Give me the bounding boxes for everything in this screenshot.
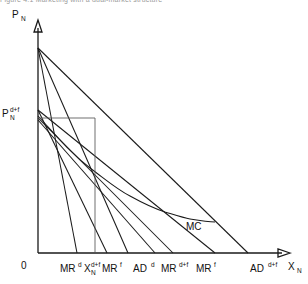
y-axis-title-base: P [12,9,19,20]
axis-group [34,20,290,257]
marginal-cost-curve-label: MC [186,221,202,232]
x-tick-ad-domestic: AD d [133,261,155,274]
x-tick-quantity-combined: X N d+f [84,261,100,276]
x-tick-base: AD [250,263,264,274]
x-tick-sup: f [120,261,122,268]
x-tick-sup: d [151,261,155,268]
x-tick-base: MR [161,263,177,274]
x-tick-ad-combined: AD d+f [250,261,277,274]
guide-group [38,118,95,253]
x-tick-base: MR [60,263,76,274]
x-tick-mr-domestic: MR d [60,261,82,274]
curve-mr-combined [38,120,155,253]
x-tick-sup: d+f [179,261,188,268]
x-tick-base: MR [102,263,118,274]
x-tick-sup: d [78,261,82,268]
x-axis-title-sub: N [297,267,302,274]
y-axis-title-sub: N [21,15,26,22]
x-tick-base: X [84,263,91,274]
origin-label: 0 [21,260,27,271]
curve-ad-domestic [38,48,128,253]
x-tick-mr-combined: MR d+f [161,261,188,274]
x-tick-sup: f [214,261,216,268]
x-tick-sup: d+f [91,261,100,268]
y-tick-sup: d+f [10,106,19,113]
x-tick-base: MR [196,263,212,274]
economics-dual-market-diagram: P N X N 0 P N d+f MR d X N d+f MR f AD d… [0,0,308,284]
x-axis-title-base: X [288,261,295,272]
x-tick-mr-foreign-inner: MR f [102,261,122,274]
y-tick-price-combined: P N d+f [2,106,19,121]
x-tick-base: AD [133,263,147,274]
y-tick-base: P [2,108,9,119]
x-tick-sub: N [91,269,96,276]
y-tick-sub: N [10,114,15,121]
x-tick-sup: d+f [268,261,277,268]
x-tick-mr-foreign-outer: MR f [196,261,216,274]
curve-group [38,48,248,253]
